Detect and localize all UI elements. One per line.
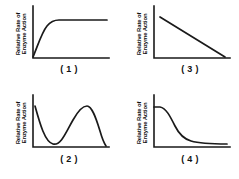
chart-1-axes	[33, 6, 109, 58]
y-axis-label-line2: Enzyme Action	[142, 103, 148, 144]
chart-4-curve	[154, 107, 227, 144]
y-axis-label-line1: Relative Rate of	[136, 13, 142, 56]
chart-panel-4: Relative Rate of Enzyme Action ( 4 )	[119, 89, 239, 179]
chart-3-axes	[154, 6, 230, 58]
y-axis-label-line1: Relative Rate of	[15, 13, 21, 56]
chart-1-plot	[28, 5, 110, 63]
chart-3-plot	[149, 5, 231, 63]
chart-2-plot	[28, 94, 110, 152]
y-axis-label-line2: Enzyme Action	[21, 14, 27, 55]
y-axis-label-line2: Enzyme Action	[21, 103, 27, 144]
enzyme-graph-figure: Relative Rate of Enzyme Action ( 1 ) Rel…	[0, 0, 239, 179]
y-axis-label-line1: Relative Rate of	[15, 102, 21, 145]
chart-3-inner: Relative Rate of Enzyme Action ( 3 )	[119, 0, 239, 89]
chart-2-curve	[35, 106, 106, 146]
chart-4-axes	[154, 95, 230, 147]
chart-panel-1: Relative Rate of Enzyme Action ( 1 )	[0, 0, 119, 89]
chart-3-curve	[160, 17, 225, 57]
y-axis-label-line2: Enzyme Action	[142, 14, 148, 55]
chart-panel-3: Relative Rate of Enzyme Action ( 3 )	[119, 0, 239, 89]
chart-2-inner: Relative Rate of Enzyme Action ( 2 )	[0, 89, 119, 179]
chart-4-inner: Relative Rate of Enzyme Action ( 4 )	[119, 89, 239, 179]
chart-panel-2: Relative Rate of Enzyme Action ( 2 )	[0, 89, 119, 179]
chart-1-caption: ( 1 )	[28, 64, 110, 74]
chart-2-caption: ( 2 )	[28, 154, 110, 164]
chart-3-caption: ( 3 )	[149, 64, 231, 74]
chart-4-plot	[149, 94, 231, 152]
y-axis-label-line1: Relative Rate of	[136, 102, 142, 145]
chart-1-inner: Relative Rate of Enzyme Action ( 1 )	[0, 0, 119, 89]
chart-1-curve	[33, 20, 107, 57]
chart-4-caption: ( 4 )	[149, 154, 231, 164]
